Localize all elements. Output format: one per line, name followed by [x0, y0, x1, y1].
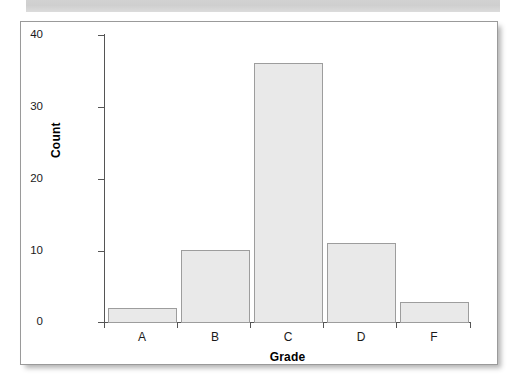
y-axis-line	[104, 34, 105, 323]
y-tick-label-40: 40	[3, 29, 43, 41]
x-tick-label-B: B	[185, 331, 245, 343]
x-tick-label-A: A	[112, 331, 172, 343]
x-tick-boundary-4	[396, 322, 397, 328]
y-tick-label-0: 0	[3, 316, 43, 328]
x-tick-label-C: C	[258, 331, 318, 343]
x-tick-boundary-0	[104, 322, 105, 328]
y-tick-label-20: 20	[3, 173, 43, 185]
y-tick-30	[98, 107, 104, 108]
x-tick-label-D: D	[331, 331, 391, 343]
x-tick-boundary-2	[250, 322, 251, 328]
bar-D	[327, 243, 396, 323]
bar-A	[108, 308, 177, 323]
top-banner-strip	[26, 0, 500, 12]
y-axis-title: Count	[49, 122, 63, 158]
y-tick-label-30: 30	[3, 101, 43, 113]
x-tick-boundary-5	[470, 322, 471, 328]
y-tick-20	[98, 179, 104, 180]
x-tick-boundary-3	[323, 322, 324, 328]
bar-F	[400, 302, 469, 324]
y-tick-40	[98, 35, 104, 36]
x-axis-title: Grade	[104, 350, 471, 364]
y-tick-label-10: 10	[3, 245, 43, 257]
bar-B	[181, 250, 250, 323]
bar-C	[254, 63, 323, 323]
x-tick-boundary-1	[177, 322, 178, 328]
chart-figure-card: 40 30 20 10 0 A B C D F Count Grade	[20, 21, 498, 365]
x-tick-label-F: F	[404, 331, 464, 343]
y-tick-10	[98, 251, 104, 252]
bar-chart-plot-area: 40 30 20 10 0 A B C D F Count Grade	[21, 22, 497, 364]
